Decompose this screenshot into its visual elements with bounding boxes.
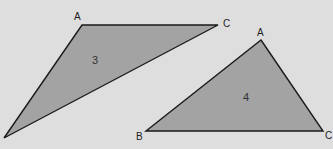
triangles-svg xyxy=(0,0,333,149)
triangle-4-number-label: 4 xyxy=(243,92,249,103)
triangle-3-number-label: 3 xyxy=(92,55,98,66)
triangle-4-vertex-c-label: C xyxy=(325,131,332,141)
triangle-4 xyxy=(146,40,323,131)
triangle-3-vertex-a-label: A xyxy=(74,12,81,22)
triangle-3-vertex-c-label: C xyxy=(223,19,230,29)
triangle-4-vertex-a-label: A xyxy=(257,28,264,38)
triangle-4-vertex-b-label: B xyxy=(136,132,143,142)
diagram-canvas: A C 3 A B C 4 xyxy=(0,0,333,149)
